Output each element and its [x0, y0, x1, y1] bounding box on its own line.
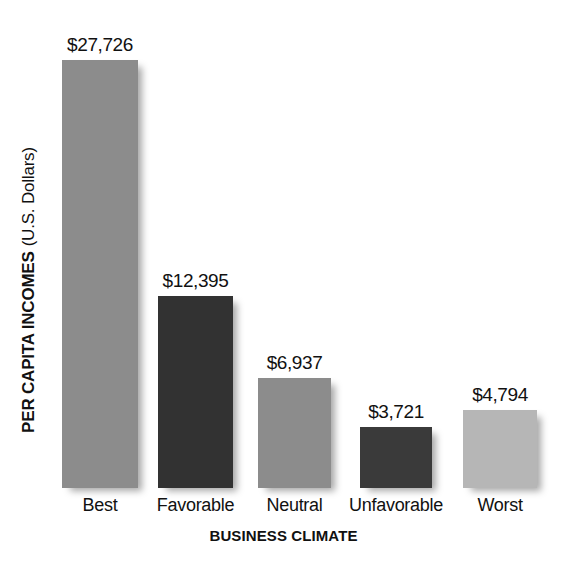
bar-value-label: $4,794	[472, 384, 528, 406]
bar-group-favorable: $12,395 Favorable	[158, 296, 233, 488]
y-axis-title: PER CAPITA INCOMES (U.S. Dollars)	[12, 80, 46, 500]
bar-category-label: Neutral	[267, 495, 323, 516]
plot-area: $27,726 Best $12,395 Favorable $6,937 Ne…	[46, 0, 567, 568]
bar-value-label: $12,395	[163, 270, 229, 292]
bar-category-label: Worst	[477, 495, 522, 516]
bar-group-unfavorable: $3,721 Unfavorable	[360, 427, 432, 488]
bar-chart: PER CAPITA INCOMES (U.S. Dollars) $27,72…	[0, 0, 567, 568]
bar-category-label: Unfavorable	[349, 495, 443, 516]
bar-value-label: $6,937	[267, 352, 323, 374]
bar-category-label: Best	[83, 495, 118, 516]
x-axis-title: BUSINESS CLIMATE	[0, 527, 567, 544]
bar-group-worst: $4,794 Worst	[463, 410, 537, 488]
bar-category-label: Favorable	[157, 495, 234, 516]
bar-group-neutral: $6,937 Neutral	[258, 378, 331, 488]
bar-worst	[463, 410, 537, 488]
bar-favorable	[158, 296, 233, 488]
bar-value-label: $27,726	[67, 34, 133, 56]
bar-unfavorable	[360, 427, 432, 488]
y-axis-title-units: (U.S. Dollars)	[19, 147, 39, 246]
bar-best	[62, 60, 138, 488]
bar-neutral	[258, 378, 331, 488]
bar-value-label: $3,721	[368, 401, 424, 423]
y-axis-title-main: PER CAPITA INCOMES	[19, 251, 39, 433]
bar-group-best: $27,726 Best	[62, 60, 138, 488]
